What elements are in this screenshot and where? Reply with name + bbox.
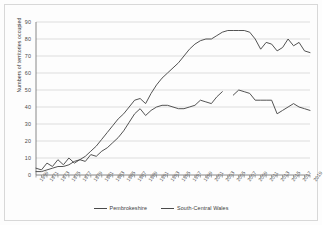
data-series: [36, 31, 310, 172]
legend-swatch-icon: [94, 208, 107, 209]
legend-item: South-Central Wales: [161, 205, 228, 211]
series-line: [233, 90, 310, 114]
legend-swatch-icon: [161, 208, 174, 209]
legend-label: South-Central Wales: [177, 205, 228, 211]
legend-item: Pembrokeshire: [94, 205, 148, 211]
legend-label: Pembrokeshire: [110, 205, 148, 211]
series-line: [36, 31, 310, 172]
gridlines: [36, 22, 310, 158]
legend: Pembrokeshire South-Central Wales: [0, 205, 322, 211]
axis-lines: [36, 22, 310, 175]
